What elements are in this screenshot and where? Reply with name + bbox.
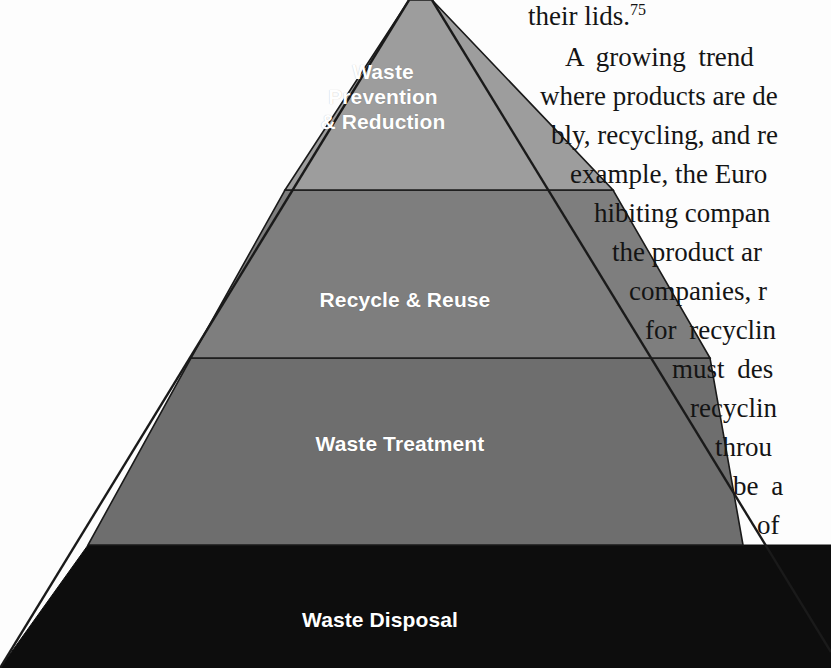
line-product: the product ar — [612, 239, 762, 266]
line-lids: their lids.75 — [528, 3, 646, 30]
line-mustdes: must des — [672, 356, 773, 383]
line-recycling: bly, recycling, and re — [551, 122, 778, 149]
line-european: example, the Euro — [570, 161, 767, 188]
line-bea: be a — [733, 473, 783, 500]
body-text-column: their lids.75A growing trendwhere produc… — [0, 0, 831, 668]
page-root: Waste Prevention & Reduction Recycle & R… — [0, 0, 831, 668]
line-recyclin2: recyclin — [690, 395, 777, 422]
line-throu: throu — [715, 434, 772, 461]
line-companies: companies, r — [629, 278, 767, 305]
line-hibiting: hibiting compan — [594, 200, 770, 227]
line-forrecy: for recyclin — [645, 317, 776, 344]
line-of: of — [757, 512, 780, 539]
line-growing: A growing trend — [565, 44, 754, 71]
line-lids-footnote-marker: 75 — [630, 1, 646, 18]
line-products: where products are de — [540, 83, 778, 110]
